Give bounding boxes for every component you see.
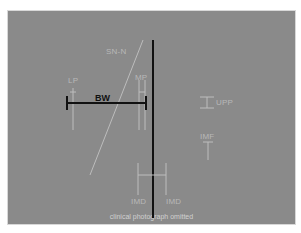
label-lp: LP <box>68 76 78 85</box>
label-imd-left: IMD <box>131 197 146 206</box>
annotation-overlay <box>0 0 301 233</box>
label-upp: UPP <box>216 98 233 107</box>
label-mp: MP <box>135 73 147 82</box>
sn-n-line <box>90 40 143 175</box>
label-imf: IMF <box>200 132 214 141</box>
label-imd-right: IMD <box>166 197 181 206</box>
label-sn-n: SN-N <box>106 47 126 56</box>
label-bw: BW <box>95 93 110 103</box>
